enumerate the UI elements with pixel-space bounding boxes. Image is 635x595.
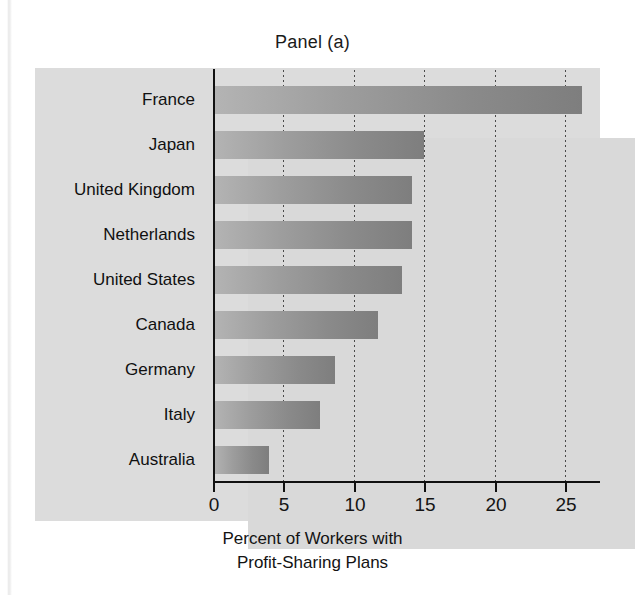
category-label-italy: Italy: [0, 405, 195, 425]
gridline-15: [424, 70, 425, 481]
category-label-japan: Japan: [0, 135, 195, 155]
xtick-10: [354, 483, 356, 492]
category-label-australia: Australia: [0, 450, 195, 470]
figure-title: Panel (a): [0, 32, 625, 53]
x-axis-caption-line-1: Percent of Workers with: [0, 527, 625, 551]
bar-germany: [213, 356, 335, 384]
xtick-0: [213, 483, 215, 492]
xtick-label-15: 15: [395, 494, 455, 516]
xtick-label-20: 20: [466, 494, 526, 516]
xtick-5: [283, 483, 285, 492]
gridline-25: [565, 70, 566, 481]
category-label-united-states: United States: [0, 270, 195, 290]
xtick-label-5: 5: [254, 494, 314, 516]
bar-italy: [213, 401, 320, 429]
bar-united-kingdom: [213, 176, 412, 204]
gridline-20: [495, 70, 496, 481]
bar-australia: [213, 446, 269, 474]
bar-netherlands: [213, 221, 412, 249]
bar-france: [213, 86, 582, 114]
x-axis-caption-line-2: Profit-Sharing Plans: [0, 551, 625, 575]
x-axis-line: [213, 481, 600, 483]
category-label-canada: Canada: [0, 315, 195, 335]
category-label-netherlands: Netherlands: [0, 225, 195, 245]
category-label-france: France: [0, 90, 195, 110]
xtick-label-0: 0: [184, 494, 244, 516]
xtick-15: [424, 483, 426, 492]
bar-united-states: [213, 266, 402, 294]
xtick-label-10: 10: [325, 494, 385, 516]
category-label-united-kingdom: United Kingdom: [0, 180, 195, 200]
xtick-20: [495, 483, 497, 492]
xtick-label-25: 25: [536, 494, 596, 516]
y-axis-line: [213, 69, 215, 483]
category-label-germany: Germany: [0, 360, 195, 380]
bar-canada: [213, 311, 378, 339]
xtick-25: [565, 483, 567, 492]
x-axis-caption: Percent of Workers with Profit-Sharing P…: [0, 527, 625, 575]
bar-japan: [213, 131, 424, 159]
